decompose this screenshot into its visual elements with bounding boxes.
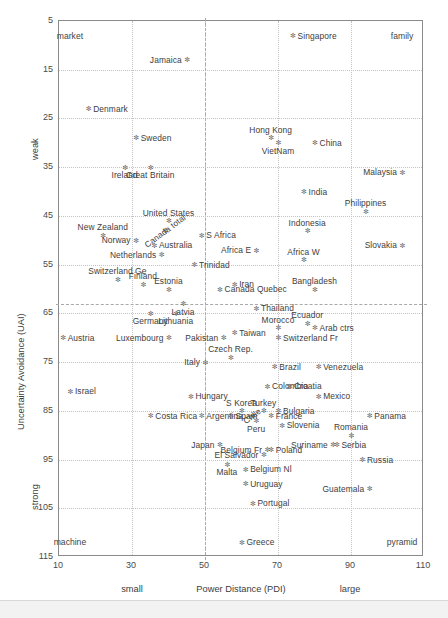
point-label: Arab ctrs bbox=[320, 323, 354, 333]
point-label: Sweden bbox=[141, 133, 172, 143]
point-marker bbox=[276, 140, 281, 145]
point-marker bbox=[312, 140, 317, 145]
point-label: Italy bbox=[184, 357, 200, 367]
point-marker bbox=[199, 413, 204, 418]
point-label: Czech Rep. bbox=[208, 344, 253, 354]
y-tick-45: 45 bbox=[27, 210, 53, 220]
gridline-horizontal bbox=[59, 313, 422, 314]
y-tick-25: 25 bbox=[27, 112, 53, 122]
point-label: Belgium Nl bbox=[250, 464, 292, 474]
point-marker bbox=[268, 413, 273, 418]
point-marker bbox=[188, 394, 193, 399]
gridline-horizontal bbox=[59, 362, 422, 363]
point-marker bbox=[140, 282, 145, 287]
y-tick-35: 35 bbox=[27, 161, 53, 171]
point-label: Hungary bbox=[195, 391, 227, 401]
point-label: Venezuela bbox=[323, 362, 363, 372]
point-label: Japan bbox=[191, 440, 214, 450]
quadrant-label-machine: machine bbox=[54, 537, 86, 547]
scatter-plot-area: marketfamilymachinepyramid JamaicaSingap… bbox=[58, 20, 423, 556]
x-axis-title: Power Distance (PDI) bbox=[196, 584, 285, 594]
chart-figure: 5152535455565758595105115 1030507090110 … bbox=[0, 0, 448, 600]
point-marker bbox=[286, 384, 291, 389]
point-marker bbox=[254, 306, 259, 311]
point-label: Africa W bbox=[287, 247, 319, 257]
point-label: Israel bbox=[75, 386, 96, 396]
point-label: New Zealand bbox=[78, 222, 128, 232]
y-tick-15: 15 bbox=[27, 64, 53, 74]
point-marker bbox=[301, 257, 306, 262]
point-marker bbox=[151, 243, 156, 248]
point-label: Ecuador bbox=[291, 310, 323, 320]
divider-horizontal bbox=[56, 304, 427, 305]
point-marker bbox=[312, 325, 317, 330]
point-label: Brazil bbox=[279, 362, 301, 372]
gridline-horizontal bbox=[59, 70, 422, 71]
point-marker bbox=[148, 165, 153, 170]
point-label: Luxembourg bbox=[116, 333, 164, 343]
point-label: Mexico bbox=[323, 391, 350, 401]
point-label: Pakistan bbox=[185, 333, 218, 343]
point-label: Slovakia bbox=[365, 240, 397, 250]
point-label: Jamaica bbox=[150, 55, 182, 65]
point-label: India bbox=[309, 187, 328, 197]
quadrant-label-market: market bbox=[57, 31, 83, 41]
point-label: Austria bbox=[68, 333, 95, 343]
point-marker bbox=[305, 321, 310, 326]
x-axis-small-label: small bbox=[121, 584, 143, 594]
point-label: Thailand bbox=[261, 303, 294, 313]
gridline-horizontal bbox=[59, 508, 422, 509]
point-label: Australia bbox=[159, 240, 192, 250]
point-marker bbox=[400, 243, 405, 248]
point-marker bbox=[181, 301, 186, 306]
point-marker bbox=[228, 413, 233, 418]
point-label: Lithuania bbox=[158, 316, 193, 326]
y-tick-95: 95 bbox=[27, 454, 53, 464]
point-label: Malta bbox=[216, 467, 237, 477]
point-marker bbox=[334, 442, 339, 447]
x-axis-large-label: large bbox=[340, 584, 361, 594]
gridline-horizontal bbox=[59, 216, 422, 217]
point-marker bbox=[279, 423, 284, 428]
point-marker bbox=[133, 238, 138, 243]
gridline-vertical bbox=[132, 21, 133, 555]
point-marker bbox=[261, 452, 266, 457]
point-marker bbox=[159, 252, 164, 257]
point-label: S Africa bbox=[206, 230, 236, 240]
point-label: VietNam bbox=[262, 146, 295, 156]
point-marker bbox=[203, 360, 208, 365]
point-marker bbox=[301, 189, 306, 194]
point-label: Serbia bbox=[341, 440, 366, 450]
point-marker bbox=[184, 57, 189, 62]
point-label: France bbox=[276, 411, 303, 421]
point-marker bbox=[67, 389, 72, 394]
point-marker bbox=[166, 218, 171, 223]
point-marker bbox=[312, 287, 317, 292]
point-label: Africa E bbox=[221, 245, 251, 255]
point-label: Switzerland Fr bbox=[283, 333, 338, 343]
point-marker bbox=[250, 501, 255, 506]
x-tick-70: 70 bbox=[262, 560, 292, 570]
point-label: Poland bbox=[276, 445, 303, 455]
point-label: Estonia bbox=[154, 276, 183, 286]
point-label: El Salvador bbox=[214, 450, 258, 460]
point-label: Taiwan bbox=[239, 328, 266, 338]
point-label: Guatemala bbox=[322, 484, 364, 494]
y-axis-weak-label: weak bbox=[30, 138, 40, 160]
point-marker bbox=[232, 330, 237, 335]
point-marker bbox=[199, 233, 204, 238]
point-marker bbox=[359, 457, 364, 462]
point-marker bbox=[221, 335, 226, 340]
point-label: Morocco bbox=[262, 315, 295, 325]
point-marker bbox=[166, 335, 171, 340]
x-tick-30: 30 bbox=[116, 560, 146, 570]
point-label: Romania bbox=[334, 422, 368, 432]
point-label: Peru bbox=[247, 424, 265, 434]
window-bottom-bar bbox=[0, 600, 448, 618]
point-label: Netherlands bbox=[110, 250, 156, 260]
point-label: Philippines bbox=[345, 198, 387, 208]
point-marker bbox=[217, 287, 222, 292]
point-marker bbox=[243, 481, 248, 486]
point-marker bbox=[122, 165, 127, 170]
point-marker bbox=[60, 335, 65, 340]
